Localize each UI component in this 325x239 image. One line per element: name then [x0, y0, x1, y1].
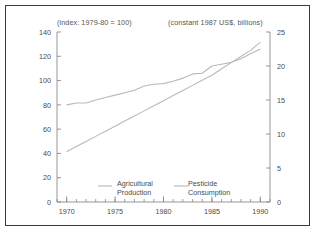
ytick-label-right: 5: [277, 164, 299, 173]
ytick-label-right: 0: [277, 198, 299, 207]
ytick-label-left: 120: [29, 52, 51, 61]
legend-label-pesticide-consumption: Pesticide Consumption: [188, 180, 230, 197]
ytick-label-left: 140: [29, 28, 51, 37]
xtick-label: 1980: [149, 207, 179, 216]
ytick-label-right: 20: [277, 62, 299, 71]
legend-label-line2: Consumption: [188, 189, 230, 198]
ytick-label-left: 40: [29, 149, 51, 158]
chart-series: [67, 42, 261, 151]
ytick-label-left: 20: [29, 173, 51, 182]
series-line-2: [67, 42, 261, 151]
legend-label-agricultural-production: Agricultural Production: [117, 180, 153, 197]
xtick-label: 1985: [197, 207, 227, 216]
ytick-label-left: 0: [29, 198, 51, 207]
legend-label-line2: Production: [117, 189, 153, 198]
chart-axes: [57, 32, 270, 202]
xtick-label: 1975: [100, 207, 130, 216]
figure-container: (index: 1979-80 = 100) (constant 1987 US…: [0, 0, 325, 239]
ytick-label-right: 10: [277, 130, 299, 139]
ytick-label-right: 15: [277, 96, 299, 105]
ytick-label-left: 60: [29, 125, 51, 134]
series-line-1: [67, 49, 261, 105]
ytick-label-right: 25: [277, 28, 299, 37]
xtick-label: 1970: [52, 207, 82, 216]
xtick-label: 1990: [245, 207, 275, 216]
ytick-label-left: 100: [29, 76, 51, 85]
ytick-label-left: 80: [29, 101, 51, 110]
